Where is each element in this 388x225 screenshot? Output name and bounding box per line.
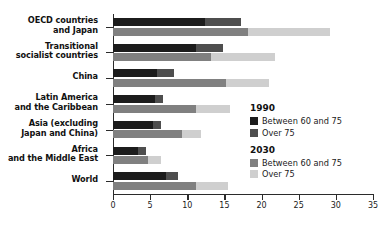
x-axis-tick — [299, 194, 300, 200]
legend-item-label: Over 75 — [262, 128, 295, 138]
bar-segment-1990-between-60-and-75 — [113, 121, 153, 129]
x-axis-tick-label: 0 — [102, 201, 124, 210]
category-label: China — [73, 72, 99, 81]
y-axis-tick — [106, 104, 113, 105]
bar-segment-2030-over-75 — [226, 79, 269, 87]
y-axis-tick — [106, 155, 113, 156]
bar-segment-1990-between-60-and-75 — [113, 95, 155, 103]
bar-segment-1990-between-60-and-75 — [113, 172, 166, 180]
bar-segment-2030-between-60-and-75 — [113, 130, 182, 138]
legend-swatch-icon — [250, 159, 258, 167]
legend-item[interactable]: Over 75 — [250, 128, 342, 138]
x-axis-tick — [373, 194, 374, 200]
legend-item[interactable]: Between 60 and 75 — [250, 158, 342, 168]
category-label: OECD countries and Japan — [28, 16, 98, 35]
y-axis-tick — [106, 181, 113, 182]
y-axis-tick — [106, 27, 113, 28]
legend-item-label: Over 75 — [262, 169, 295, 179]
bar-segment-1990-over-75 — [155, 95, 162, 103]
category-label: World — [71, 175, 98, 184]
category-label: Transitional socialist countries — [16, 42, 98, 61]
x-axis-tick — [336, 194, 337, 200]
legend-group-title: 2030 — [250, 145, 342, 155]
bar-segment-1990-between-60-and-75 — [113, 147, 138, 155]
bar-segment-1990-over-75 — [166, 172, 179, 180]
x-axis-tick — [150, 194, 151, 200]
bar-segment-1990-between-60-and-75 — [113, 18, 205, 26]
x-axis-tick-label: 15 — [213, 201, 235, 210]
bar-segment-2030-over-75 — [248, 28, 330, 36]
bar-segment-2030-over-75 — [211, 53, 275, 61]
bar-segment-2030-over-75 — [196, 105, 229, 113]
x-axis-line — [113, 194, 374, 195]
legend-swatch-icon — [250, 170, 258, 178]
x-axis-tick-label: 30 — [325, 201, 347, 210]
y-axis-tick — [106, 52, 113, 53]
category-label: Africa and the Middle East — [8, 145, 98, 164]
bar-segment-1990-between-60-and-75 — [113, 69, 157, 77]
bar-segment-1990-over-75 — [153, 121, 161, 129]
bar-segment-2030-over-75 — [196, 182, 228, 190]
chart-legend: 1990Between 60 and 75Over 752030Between … — [250, 103, 342, 186]
legend-group-title: 1990 — [250, 103, 342, 113]
bar-segment-2030-between-60-and-75 — [113, 79, 226, 87]
legend-swatch-icon — [250, 129, 258, 137]
x-axis-tick — [187, 194, 188, 200]
bar-segment-1990-over-75 — [138, 147, 145, 155]
x-axis-tick — [113, 194, 114, 200]
x-axis-tick-label: 35 — [362, 201, 384, 210]
category-label: Latin America and the Caribbean — [14, 93, 98, 112]
bar-chart: OECD countries and JapanTransitional soc… — [0, 0, 388, 225]
x-axis-tick-label: 25 — [288, 201, 310, 210]
bar-segment-1990-between-60-and-75 — [113, 44, 196, 52]
y-axis-tick — [106, 78, 113, 79]
bar-segment-1990-over-75 — [205, 18, 241, 26]
x-axis-tick-label: 5 — [139, 201, 161, 210]
legend-swatch-icon — [250, 117, 258, 125]
bar-segment-2030-between-60-and-75 — [113, 156, 148, 164]
bar-segment-2030-over-75 — [182, 130, 201, 138]
x-axis-tick — [224, 194, 225, 200]
bar-segment-2030-between-60-and-75 — [113, 28, 248, 36]
bar-segment-2030-between-60-and-75 — [113, 182, 196, 190]
bar-segment-1990-over-75 — [157, 69, 174, 77]
bar-segment-2030-over-75 — [148, 156, 161, 164]
x-axis-tick-label: 20 — [251, 201, 273, 210]
bar-segment-2030-between-60-and-75 — [113, 105, 196, 113]
category-label: Asia (excluding Japan and China) — [21, 119, 98, 138]
legend-item[interactable]: Between 60 and 75 — [250, 116, 342, 126]
legend-group: 1990Between 60 and 75Over 75 — [250, 103, 342, 138]
bar-segment-1990-over-75 — [196, 44, 223, 52]
legend-item[interactable]: Over 75 — [250, 169, 342, 179]
bar-segment-2030-between-60-and-75 — [113, 53, 211, 61]
legend-item-label: Between 60 and 75 — [262, 158, 342, 168]
legend-item-label: Between 60 and 75 — [262, 116, 342, 126]
x-axis-tick-label: 10 — [176, 201, 198, 210]
y-axis-tick — [106, 130, 113, 131]
x-axis-tick — [262, 194, 263, 200]
legend-group: 2030Between 60 and 75Over 75 — [250, 145, 342, 180]
